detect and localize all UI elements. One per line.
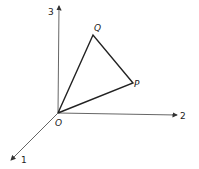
- axis-2-label: 2: [180, 111, 186, 121]
- point-p-label: P: [134, 79, 140, 89]
- origin-label: O: [55, 118, 62, 128]
- coordinate-diagram: 3 2 1 Q P O: [0, 0, 199, 169]
- point-q-label: Q: [94, 23, 101, 33]
- axis-3-label: 3: [48, 7, 54, 17]
- axis-3: [58, 6, 59, 113]
- axis-1-label: 1: [21, 155, 27, 165]
- triangle-opq: [58, 35, 133, 113]
- axis-1: [11, 113, 58, 160]
- axis-2: [58, 113, 177, 115]
